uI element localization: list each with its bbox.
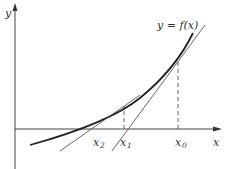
svg-text:1: 1 (127, 141, 132, 150)
label-x2: x 2 (93, 136, 105, 150)
svg-text:x: x (175, 136, 182, 149)
function-curve (30, 33, 193, 145)
svg-text:2: 2 (99, 141, 105, 150)
y-axis (13, 3, 18, 169)
label-x0: x 0 (175, 136, 187, 150)
y-axis-arrow-icon (13, 3, 18, 11)
curve-label: y = f(x) (156, 19, 198, 32)
svg-text:x: x (120, 136, 127, 149)
label-x1: x 1 (120, 136, 132, 150)
tangent-line-x0 (112, 25, 205, 151)
x-axis-arrow-icon (213, 127, 222, 132)
x-axis (15, 127, 222, 132)
x-axis-label: x (213, 136, 220, 149)
y-axis-label: y (4, 7, 12, 20)
newton-method-diagram: y x x 2 x 1 x 0 y = f(x) (0, 0, 250, 169)
svg-text:x: x (93, 136, 100, 149)
svg-text:0: 0 (182, 141, 187, 150)
